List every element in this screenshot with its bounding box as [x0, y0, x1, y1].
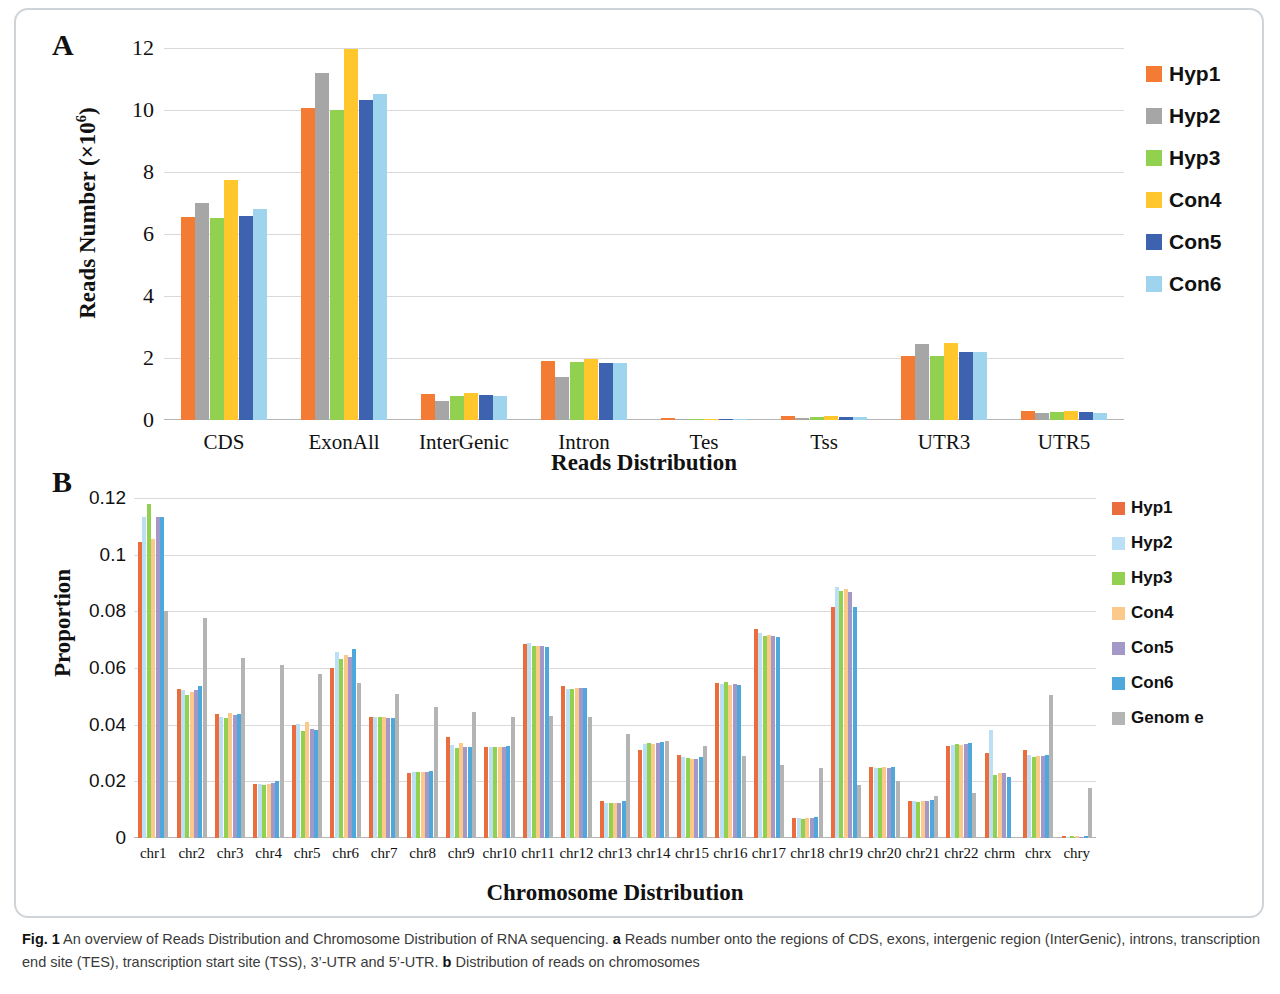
bar-group — [781, 48, 868, 420]
panel-b-plot-area — [134, 498, 1096, 838]
bar — [930, 800, 934, 838]
bar-group — [638, 498, 668, 838]
bar — [435, 401, 449, 420]
bar — [498, 747, 502, 838]
legend-item[interactable]: Hyp2 — [1112, 533, 1204, 553]
bar — [951, 745, 955, 838]
caption-bold-a: a — [613, 931, 621, 947]
y-tick-label: 4 — [114, 285, 154, 307]
bar — [1021, 411, 1035, 420]
legend-item[interactable]: Con4 — [1146, 188, 1222, 212]
bar — [651, 744, 655, 838]
y-tick-label: 0.04 — [70, 715, 126, 734]
bar — [1023, 750, 1027, 838]
bar — [622, 801, 626, 838]
y-tick-label: 0 — [70, 828, 126, 847]
bar — [831, 607, 835, 838]
bar — [541, 361, 555, 420]
x-tick-label: chr8 — [403, 846, 441, 861]
bar-group — [561, 498, 591, 838]
bar-group — [677, 498, 707, 838]
bar — [733, 419, 747, 420]
x-tick-label: chr4 — [249, 846, 287, 861]
bar — [1079, 837, 1083, 838]
bar-group — [831, 498, 861, 838]
legend-item-label: Con4 — [1169, 188, 1222, 212]
x-tick-label: chrm — [981, 846, 1019, 861]
bar — [1007, 777, 1011, 838]
bar — [925, 801, 929, 838]
bar — [545, 647, 549, 838]
legend-item-label: Con6 — [1131, 673, 1174, 693]
legend-item[interactable]: Hyp1 — [1112, 498, 1204, 518]
bar-group — [985, 498, 1015, 838]
y-tick-label: 0.12 — [70, 488, 126, 507]
bar — [814, 817, 818, 838]
bar-group — [292, 498, 322, 838]
bar — [647, 743, 651, 838]
bar — [253, 784, 257, 838]
bar — [993, 775, 997, 838]
legend-item[interactable]: Hyp1 — [1146, 62, 1222, 86]
bar — [412, 772, 416, 838]
bar — [575, 688, 579, 838]
legend-swatch-icon — [1112, 712, 1125, 725]
bar — [604, 803, 608, 838]
legend-item[interactable]: Genom e — [1112, 708, 1204, 728]
x-tick-label: chr2 — [172, 846, 210, 861]
x-tick-label: chr6 — [326, 846, 364, 861]
bar — [771, 636, 775, 838]
x-tick-label: chr19 — [827, 846, 865, 861]
bar — [626, 734, 630, 838]
bar — [656, 743, 660, 838]
bar — [373, 94, 387, 420]
bar — [511, 717, 515, 838]
bar — [464, 393, 478, 420]
x-tick-label: chr15 — [673, 846, 711, 861]
bar — [378, 717, 382, 838]
bar — [891, 767, 895, 838]
legend-item[interactable]: Hyp3 — [1112, 568, 1204, 588]
bar — [395, 694, 399, 839]
bar — [421, 772, 425, 838]
bar — [599, 363, 613, 420]
bar — [853, 417, 867, 420]
panel-b-x-axis-title: Chromosome Distribution — [134, 880, 1096, 906]
legend-item[interactable]: Con6 — [1146, 272, 1222, 296]
legend-item[interactable]: Con5 — [1146, 230, 1222, 254]
bar — [561, 686, 565, 838]
bar — [450, 396, 464, 420]
legend-item[interactable]: Hyp2 — [1146, 104, 1222, 128]
bar — [985, 753, 989, 838]
bar — [844, 589, 848, 838]
bar — [959, 745, 963, 839]
bar — [292, 725, 296, 838]
bar — [555, 377, 569, 420]
bar — [915, 344, 929, 420]
x-tick-label: chr1 — [134, 846, 172, 861]
bar — [959, 352, 973, 420]
bar — [239, 216, 253, 420]
bar — [468, 747, 472, 838]
bar — [391, 718, 395, 838]
bar — [335, 652, 339, 838]
bar — [493, 747, 497, 838]
legend-item[interactable]: Hyp3 — [1146, 146, 1222, 170]
legend-item[interactable]: Con6 — [1112, 673, 1204, 693]
legend-item[interactable]: Con4 — [1112, 603, 1204, 623]
bar — [219, 717, 223, 838]
bar — [318, 674, 322, 838]
bar — [916, 802, 920, 838]
bar — [579, 688, 583, 838]
bar-group — [754, 498, 784, 838]
bar — [339, 659, 343, 838]
bar-group — [330, 498, 360, 838]
legend-swatch-icon — [1112, 677, 1125, 690]
bar — [973, 352, 987, 420]
bar — [912, 801, 916, 838]
bar — [455, 748, 459, 838]
legend-item[interactable]: Con5 — [1112, 638, 1204, 658]
bar — [810, 818, 814, 838]
y-tick-label: 10 — [114, 99, 154, 121]
bar — [203, 618, 207, 838]
